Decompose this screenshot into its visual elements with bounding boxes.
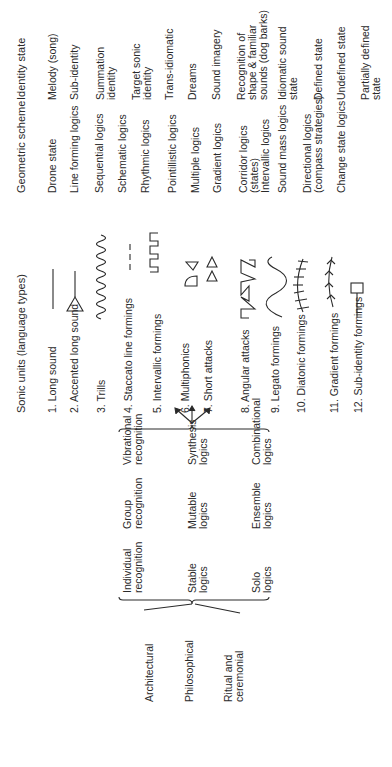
legato-wave-icon: [266, 257, 286, 317]
accent-triangle-icon: [67, 271, 83, 311]
glyph-layer: [0, 0, 392, 767]
grid-mutable-b: logics: [198, 502, 210, 529]
context-philosophical: Philosophical: [184, 640, 196, 702]
context-connector-lines: [144, 604, 240, 613]
grid-ensemble-b: logics: [262, 502, 274, 529]
grid-solo-b: logics: [262, 566, 274, 593]
gradient-arrowed-curve-icon: [325, 257, 335, 307]
angular-attacks-icon: [241, 260, 255, 318]
grid-synthesis-b: logics: [198, 438, 210, 465]
grid-combinational-b: logics: [262, 438, 274, 465]
short-attacks-icon: [207, 257, 217, 281]
square-wave-icon: [150, 233, 158, 272]
diatonic-ticked-curve-icon: [293, 259, 309, 312]
diagram-canvas: Sonic units (language types) Geometric s…: [0, 0, 392, 767]
left-brace: [119, 597, 269, 604]
grid-stable-b: logics: [198, 566, 210, 593]
grid-group-b: recognition: [133, 478, 145, 529]
context-architectural: Architectural: [144, 644, 156, 702]
grid-individual-b: recognition: [133, 542, 145, 593]
trill-wave-icon: [97, 235, 106, 319]
grid-vibrational-b: recognition: [133, 414, 145, 465]
context-ritual-line2: ceremonial: [234, 651, 246, 702]
square-on-line-icon: [351, 283, 363, 317]
multiphonics-icon: [185, 262, 198, 286]
